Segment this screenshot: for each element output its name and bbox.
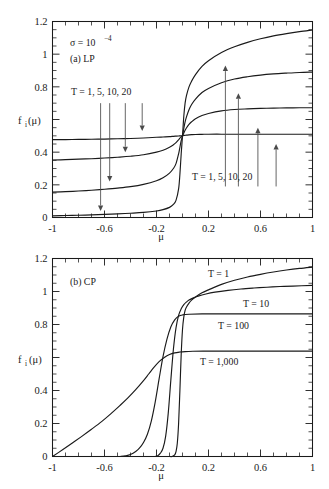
y-tick-label: 0 [42,212,47,223]
panel-lp: 00.20.40.811.2 -1-0.6-0.20.20.61 f i (μ)… [0,0,329,245]
y-tick-label: 1 [42,286,47,297]
svg-text:(μ): (μ) [28,115,41,127]
arrow-down-0 [98,103,103,211]
y-axis-title-b: f i (μ) [18,354,42,368]
arrow-down-2 [123,103,128,152]
annotation-t-right-a: T = 1, 5, 10, 20 [192,171,252,182]
arrow-down-1 [107,103,112,181]
data-curves-b [53,267,313,457]
panel-label-a: (a) LP [70,53,95,65]
plot-frame-b [53,259,313,457]
y-tick-label: 0.2 [34,418,47,429]
annotation-t-left-a: T = 1, 5, 10, 20 [71,86,131,97]
annotation-t10-b: T = 10 [243,298,269,309]
y-tick-label: 1.2 [34,253,47,264]
x-tick-label: -0.6 [96,462,113,473]
y-tick-label: 0.4 [34,147,48,158]
x-tick-label: 1 [310,223,315,234]
svg-text:−4: −4 [104,35,112,43]
panel-cp-svg: 00.20.40.811.2 -1-0.6-0.20.20.61 f i (μ)… [0,245,329,489]
y-tick-label: 1.2 [34,16,47,27]
arrow-up-2 [255,128,260,187]
y-tick-label: 1 [42,49,47,60]
annotation-t100-b: T = 100 [218,320,249,331]
axis-tickmarks-a [53,22,313,218]
panel-label-b: (b) CP [70,276,96,288]
svg-text:i: i [25,121,27,129]
y-axis-title-a: f i (μ) [18,115,41,129]
annotation-sigma: σ = 10 −4 [70,35,112,48]
y-tick-label: 0.8 [34,82,47,93]
plot-frame-a [53,22,313,218]
x-tick-label: 1 [310,462,315,473]
curve-t-100 [120,314,312,457]
y-tick-label: 0.4 [34,385,48,396]
svg-text:f: f [18,115,22,126]
x-tick-label: -1 [48,462,57,473]
svg-text:f: f [18,354,22,365]
x-tick-label: -1 [48,223,57,234]
x-axis-title-a: μ [158,231,164,242]
annotation-t1-b: T = 1 [208,268,229,279]
x-axis-tick-labels-b: -1-0.6-0.20.20.61 [48,462,315,473]
y-tick-label: 0 [42,451,47,462]
arrow-down-3 [140,103,145,131]
panel-cp: 00.20.40.811.2 -1-0.6-0.20.20.61 f i (μ)… [0,245,329,489]
curve-t-10 [155,285,312,456]
svg-text:(μ): (μ) [29,354,42,366]
annotation-t1000-b: T = 1,000 [200,356,238,367]
x-tick-label: -0.6 [96,223,113,234]
x-tick-label: 0.6 [254,462,267,473]
curve-t-1 [170,267,313,457]
x-tick-label: 0.2 [202,223,215,234]
x-tick-label: 0.2 [202,462,215,473]
arrow-up-3 [274,144,279,186]
svg-text:i: i [25,360,27,368]
axis-tickmarks-b [53,259,313,457]
panel-lp-svg: 00.20.40.811.2 -1-0.6-0.20.20.61 f i (μ)… [0,0,329,245]
x-axis-title-b: μ [158,470,164,481]
x-axis-tick-labels-a: -1-0.6-0.20.20.61 [48,223,315,234]
svg-text:σ = 10: σ = 10 [70,37,96,48]
x-tick-label: 0.6 [254,223,267,234]
arrow-up-0 [223,66,228,187]
y-tick-label: 0.2 [34,180,47,191]
curve-t-1-000 [53,351,313,456]
y-tick-label: 0.8 [34,319,47,330]
figure-container: 00.20.40.811.2 -1-0.6-0.20.20.61 f i (μ)… [0,0,329,489]
